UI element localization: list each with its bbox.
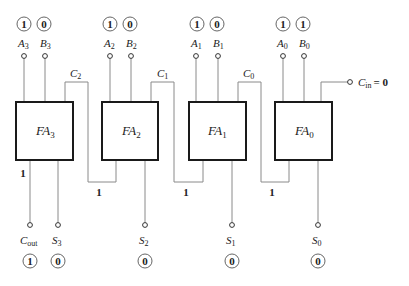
a3-value: 1 (21, 18, 27, 30)
cout-value: 1 (27, 255, 33, 267)
b1-pin (216, 54, 221, 59)
a1-label: A1 (190, 37, 202, 51)
a3-pin (22, 54, 27, 59)
s3-pin (56, 223, 61, 228)
s0-value: 0 (315, 255, 321, 267)
a2-pin (108, 54, 113, 59)
b2-pin (129, 54, 134, 59)
a1-pin (194, 54, 199, 59)
output-labels: Cout S3 S2 S1 S0 (20, 234, 322, 248)
c2-label: C2 (70, 67, 81, 81)
c1-wire-value: 1 (183, 186, 189, 198)
b3-label: B3 (40, 37, 51, 51)
b1-label: B1 (213, 37, 224, 51)
wire-cin (321, 82, 348, 102)
fa2-label: FA (121, 123, 136, 138)
input-labels: A3 B3 A2 B2 A1 B1 A0 B0 (17, 37, 310, 51)
b1-value: 0 (214, 18, 220, 30)
c2-wire-value: 1 (96, 186, 102, 198)
cout-label: Cout (20, 234, 38, 248)
s1-pin (230, 223, 235, 228)
ripple-carry-adder-diagram: FA3 FA2 FA1 FA0 1 0 1 0 1 0 1 1 A3 B3 A2… (0, 0, 409, 286)
output-pins (28, 223, 321, 228)
c0-wire-value: 1 (269, 186, 275, 198)
cout-wire-value: 1 (20, 167, 26, 179)
s2-value: 0 (142, 255, 148, 267)
s1-value: 0 (229, 255, 235, 267)
s3-value: 0 (55, 255, 61, 267)
a1-value: 1 (194, 18, 200, 30)
fa3-label: FA (35, 123, 50, 138)
s1-label: S1 (226, 234, 236, 248)
a0-label: A0 (276, 37, 288, 51)
a2-label: A2 (103, 37, 115, 51)
s2-label: S2 (139, 234, 149, 248)
s0-label: S0 (312, 234, 322, 248)
cin-label: Cin= 0 (358, 76, 389, 90)
s0-pin (316, 223, 321, 228)
a2-value: 1 (107, 18, 113, 30)
fa0-label: FA (294, 123, 309, 138)
c1-label: C1 (157, 67, 168, 81)
c0-label: C0 (243, 67, 254, 81)
full-adder-fa2: FA2 (102, 102, 158, 160)
cout-pin (28, 223, 33, 228)
fa1-label: FA (207, 123, 222, 138)
cin-pin (348, 80, 353, 85)
b3-value: 0 (41, 18, 47, 30)
input-values: 1 0 1 0 1 0 1 1 (17, 17, 310, 31)
output-values: 1 0 0 0 0 (23, 254, 325, 268)
s3-label: S3 (52, 234, 62, 248)
b0-label: B0 (299, 37, 310, 51)
full-adder-fa0: FA0 (275, 102, 332, 160)
a0-pin (281, 54, 286, 59)
full-adder-fa1: FA1 (189, 102, 246, 160)
a3-label: A3 (17, 37, 29, 51)
b2-label: B2 (126, 37, 137, 51)
full-adder-fa3: FA3 (16, 102, 73, 160)
b0-value: 1 (300, 18, 306, 30)
b0-pin (302, 54, 307, 59)
s2-pin (143, 223, 148, 228)
a0-value: 1 (280, 18, 286, 30)
b2-value: 0 (127, 18, 133, 30)
b3-pin (43, 54, 48, 59)
